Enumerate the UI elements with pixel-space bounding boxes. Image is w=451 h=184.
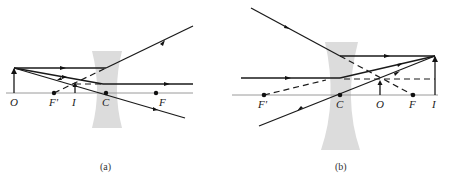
- ray-arrow: [60, 66, 66, 70]
- focal-point-f-prime-b: [262, 93, 267, 98]
- ray-arrow: [397, 63, 403, 67]
- ray-arrow: [284, 25, 290, 29]
- label-o-b: O: [376, 98, 384, 110]
- label-i-b: I: [431, 98, 437, 110]
- optics-figure: O F' I C F (a): [0, 0, 451, 184]
- ray-a-1-refracted: [106, 26, 193, 68]
- focal-point-f-a: [154, 91, 158, 95]
- focal-point-f-prime-a: [52, 91, 56, 95]
- label-i-a: I: [71, 96, 77, 108]
- panel-a: O F' I C F (a): [6, 26, 193, 173]
- ray-arrow: [285, 76, 291, 80]
- object-arrowhead-b: [378, 80, 383, 85]
- label-o-a: O: [10, 96, 18, 108]
- ray-b-1-incident: [251, 8, 340, 56]
- label-f-b: F: [408, 98, 416, 110]
- label-f-a: F: [158, 96, 166, 108]
- focal-point-f-b: [411, 93, 416, 98]
- ray-arrow: [384, 54, 390, 58]
- label-f-prime-a: F': [48, 96, 59, 108]
- lens-center-b: [338, 93, 343, 98]
- ray-arrow: [164, 82, 170, 86]
- panel-b: F' C O F I (b): [232, 8, 438, 173]
- label-f-prime-b: F': [257, 98, 268, 110]
- label-c-b: C: [336, 98, 344, 110]
- lens-center-a: [104, 91, 108, 95]
- ray-arrow: [62, 75, 67, 79]
- caption-a: (a): [100, 161, 111, 173]
- caption-b: (b): [335, 161, 347, 173]
- ray-b-2-virtual: [264, 80, 326, 95]
- ray-arrow: [57, 77, 62, 80]
- label-c-a: C: [102, 96, 110, 108]
